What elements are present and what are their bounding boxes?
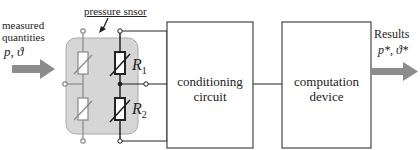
output-variables: p*, ϑ*	[378, 43, 408, 58]
block-label-line2: circuit	[167, 89, 253, 104]
input-arrow-icon	[12, 59, 55, 79]
input-variables: p, ϑ	[4, 44, 23, 60]
sensor-label: pressure snsor	[84, 5, 147, 17]
block-label-line2: device	[282, 89, 371, 104]
sensor-housing	[66, 38, 138, 134]
input-label-line2: quantities	[2, 31, 45, 43]
output-arrow-icon	[371, 62, 418, 81]
computation-device-label: computation device	[282, 74, 371, 104]
block-label-line1: conditioning	[167, 74, 253, 89]
output-label: Results	[374, 27, 409, 42]
resistor-r2-label: R2	[132, 100, 147, 120]
resistor-r1-label: R1	[132, 56, 147, 76]
block-label-line1: computation	[282, 74, 371, 89]
input-label-line1: measured	[2, 19, 44, 31]
diagram: measured quantities p, ϑ pressure snsor …	[0, 0, 420, 150]
conditioning-circuit-label: conditioning circuit	[167, 74, 253, 104]
label-pointer-icon	[99, 18, 108, 33]
